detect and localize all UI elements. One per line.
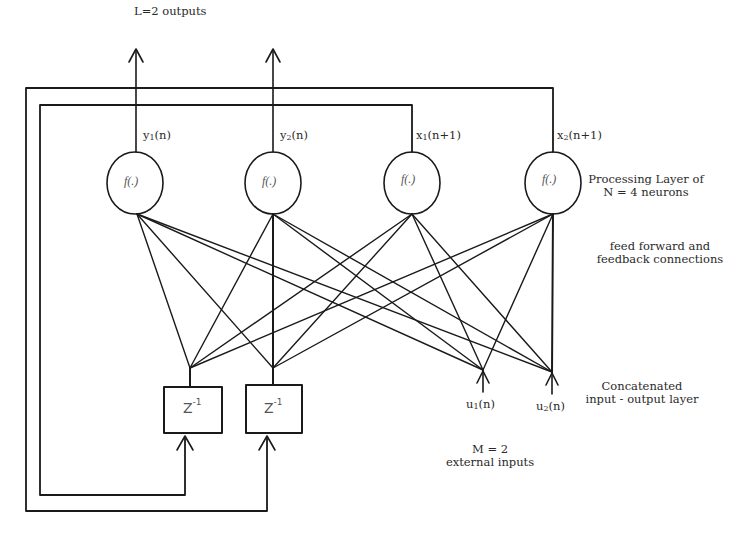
concatenated-layer-annotation: Concatenated input - output layer [580, 380, 704, 406]
label-x1: x1(n+1) [416, 129, 461, 142]
neuron-1-function: f(.) [124, 174, 138, 189]
input-arrow-u2 [546, 373, 558, 394]
neuron-2-function: f(.) [262, 174, 276, 189]
connections-annotation: feed forward and feedback connections [586, 240, 734, 266]
input-arrow-u1 [477, 371, 489, 392]
neuron-3-function: f(.) [401, 172, 415, 187]
label-u2: u2(n) [536, 400, 565, 413]
label-u1: u1(n) [466, 398, 495, 411]
label-x2: x2(n+1) [557, 129, 602, 142]
network-diagram [0, 0, 749, 533]
external-inputs-annotation: M = 2 external inputs [440, 443, 540, 469]
label-y1: y1(n) [143, 129, 171, 142]
delay-label-2: Z-1 [264, 399, 283, 416]
connection-lines [137, 214, 553, 372]
outputs-label: L=2 outputs [134, 5, 207, 18]
delay-label-1: Z-1 [183, 399, 202, 416]
processing-layer-annotation: Processing Layer of N = 4 neurons [586, 173, 706, 199]
output-arrow-y1 [129, 49, 143, 152]
neuron-4-function: f(.) [542, 172, 556, 187]
output-arrow-y2 [266, 49, 280, 152]
label-y2: y2(n) [280, 129, 308, 142]
